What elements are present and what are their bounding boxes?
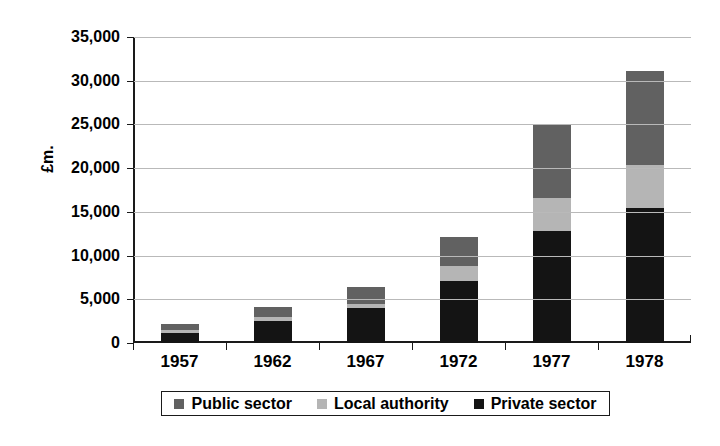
legend-item: Private sector (474, 395, 597, 413)
bar-segment-local-authority (254, 317, 292, 321)
gridline (133, 168, 691, 169)
bar-segment-private-sector (533, 231, 571, 343)
legend-item: Local authority (317, 395, 449, 413)
bar-segment-private-sector (161, 333, 199, 343)
legend-item-label: Local authority (334, 395, 449, 413)
x-axis-tick-label: 1962 (226, 352, 319, 372)
y-axis-tick-labels: 05,00010,00015,00020,00025,00030,00035,0… (28, 30, 120, 344)
bar-segment-public-sector (254, 307, 292, 317)
x-axis-tick-label: 1957 (133, 352, 226, 372)
x-axis-tick (319, 343, 320, 350)
bar-segment-local-authority (161, 330, 199, 333)
bar-segment-local-authority (626, 165, 664, 208)
gridline (133, 124, 691, 125)
bar-stack (440, 237, 478, 343)
gridline (133, 256, 691, 257)
x-axis-tick (412, 343, 413, 350)
y-axis-tick-label: 15,000 (28, 205, 120, 219)
bar-segment-local-authority (440, 266, 478, 281)
bar-stack (626, 71, 664, 343)
y-axis-tick (127, 212, 134, 213)
bar-segment-public-sector (347, 287, 385, 304)
y-axis-tick-label: 20,000 (28, 161, 120, 175)
y-axis-tick-label: 35,000 (28, 30, 120, 44)
x-axis-tick (226, 343, 227, 350)
x-axis-tick-label: 1978 (598, 352, 691, 372)
bar-segment-private-sector (347, 308, 385, 343)
bar-segment-public-sector (626, 71, 664, 165)
bar-segment-public-sector (440, 237, 478, 266)
y-axis-tick (127, 81, 134, 82)
y-axis-tick (127, 256, 134, 257)
bar-segment-local-authority (533, 198, 571, 231)
bar-stack (533, 124, 571, 343)
gridline (133, 212, 691, 213)
y-axis-tick (127, 124, 134, 125)
y-axis-tick-label: 0 (28, 336, 120, 350)
legend-item-label: Private sector (491, 395, 597, 413)
x-axis-tick-label: 1972 (412, 352, 505, 372)
y-axis-tick (127, 168, 134, 169)
gridline (133, 299, 691, 300)
bar-series-container (133, 37, 691, 343)
bar-segment-private-sector (254, 321, 292, 343)
legend-swatch-local-authority (317, 399, 327, 409)
x-axis-tick (598, 343, 599, 350)
bar-stack (161, 324, 199, 343)
x-axis-tick-labels: 195719621967197219771978 (133, 352, 691, 376)
legend-swatch-public-sector (174, 399, 184, 409)
bar-stack (254, 307, 292, 343)
bar-segment-public-sector (533, 124, 571, 197)
y-axis-tick-label: 10,000 (28, 249, 120, 263)
legend-item-label: Public sector (191, 395, 291, 413)
y-axis-tick-label: 5,000 (28, 292, 120, 306)
plot-area (133, 37, 691, 343)
bar-segment-private-sector (440, 281, 478, 343)
chart-figure: £m. 05,00010,00015,00020,00025,00030,000… (0, 0, 720, 446)
bar-segment-private-sector (626, 208, 664, 343)
y-axis-tick-label: 25,000 (28, 117, 120, 131)
y-axis-tick (127, 299, 134, 300)
bar-stack (347, 287, 385, 343)
chart-legend: Public sectorLocal authorityPrivate sect… (161, 391, 610, 416)
gridline (133, 81, 691, 82)
bar-segment-public-sector (161, 324, 199, 330)
legend-item: Public sector (174, 395, 291, 413)
y-axis-tick (127, 37, 134, 38)
y-axis-tick-label: 30,000 (28, 74, 120, 88)
bar-segment-local-authority (347, 304, 385, 308)
x-axis-tick-label: 1977 (505, 352, 598, 372)
gridline (133, 37, 691, 38)
legend-swatch-private-sector (474, 399, 484, 409)
x-axis-tick-label: 1967 (319, 352, 412, 372)
x-axis-tick (133, 343, 134, 350)
x-axis-tick (505, 343, 506, 350)
